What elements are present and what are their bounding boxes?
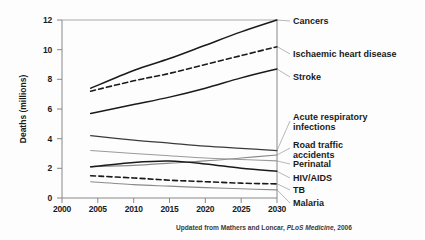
x-tick-label-2010: 2010 bbox=[125, 204, 144, 214]
series-label-malaria: Malaria bbox=[293, 198, 325, 208]
footnote-suffix: , 2006 bbox=[334, 224, 353, 232]
leader-ihd bbox=[277, 47, 290, 55]
series-curve-cancers bbox=[91, 20, 277, 88]
y-tick-label-8: 8 bbox=[47, 74, 52, 84]
series-label-perinatal: Perinatal bbox=[293, 159, 331, 169]
x-tick-label-2000: 2000 bbox=[53, 204, 72, 214]
x-tick-label-2025: 2025 bbox=[232, 204, 251, 214]
leader-rta bbox=[277, 148, 290, 155]
footnote-journal: PLoS Medicine bbox=[287, 224, 334, 231]
x-tick-label-2015: 2015 bbox=[160, 204, 179, 214]
footnote: Updated from Mathers and Loncar, PLoS Me… bbox=[176, 224, 352, 232]
series-curve-stroke bbox=[91, 69, 277, 114]
y-tick-label-12: 12 bbox=[43, 15, 53, 25]
x-tick-label-2020: 2020 bbox=[196, 204, 215, 214]
mortality-projection-chart: 12 10 8 6 4 2 0 Deaths (millions) 2000 2… bbox=[0, 0, 425, 240]
series-label-road-traffic-accidents-line1: Road traffic bbox=[293, 140, 343, 150]
leader-tb bbox=[277, 184, 290, 190]
series-label-cancers: Cancers bbox=[293, 16, 329, 26]
series-label-acute-respiratory-infections-line2: infections bbox=[293, 122, 336, 132]
series-curve-tb bbox=[91, 176, 277, 184]
y-axis-title: Deaths (millions) bbox=[18, 75, 28, 144]
y-tick-label-6: 6 bbox=[47, 104, 52, 114]
series-label-hiv-aids: HIV/AIDS bbox=[293, 173, 332, 183]
y-tick-label-0: 0 bbox=[47, 193, 52, 203]
series-label-ischaemic-heart-disease: Ischaemic heart disease bbox=[293, 49, 397, 59]
series-label-acute-respiratory-infections-line1: Acute respiratory bbox=[293, 112, 368, 122]
leader-cancers bbox=[277, 20, 290, 21]
x-tick-label-2005: 2005 bbox=[89, 204, 108, 214]
x-tick-label-2030: 2030 bbox=[268, 204, 287, 214]
chart-screenshot: 12 10 8 6 4 2 0 Deaths (millions) 2000 2… bbox=[0, 0, 425, 240]
leader-ari bbox=[277, 121, 290, 151]
series-curve-perinatal bbox=[91, 151, 277, 161]
leader-hiv bbox=[277, 171, 290, 178]
y-tick-label-2: 2 bbox=[47, 163, 52, 173]
footnote-prefix: Updated from Mathers and Loncar, bbox=[176, 224, 287, 232]
leader-malaria bbox=[277, 190, 290, 203]
y-tick-label-4: 4 bbox=[47, 134, 52, 144]
data-series-group bbox=[91, 20, 277, 190]
series-curve-acute-respiratory-infections bbox=[91, 136, 277, 151]
series-label-tb: TB bbox=[293, 185, 305, 195]
leader-stroke bbox=[277, 69, 290, 77]
leader-perinatal bbox=[277, 161, 290, 164]
series-label-stroke: Stroke bbox=[293, 72, 321, 82]
y-tick-label-10: 10 bbox=[43, 45, 53, 55]
leader-lines-group bbox=[277, 20, 290, 203]
